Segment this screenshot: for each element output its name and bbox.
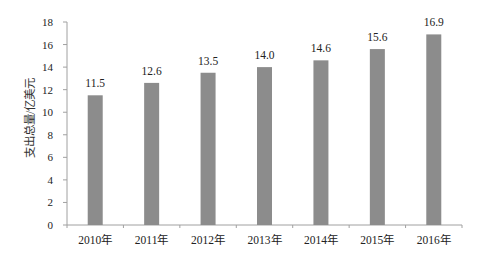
y-tick-label: 10	[42, 106, 54, 118]
y-tick-label: 12	[42, 84, 53, 96]
y-axis-label: 支出总量/亿美元	[23, 77, 36, 158]
bars: 11.52010年12.62011年13.52012年14.02013年14.6…	[78, 16, 451, 246]
bar	[426, 34, 441, 225]
x-axis	[67, 225, 462, 228]
y-tick-label: 8	[48, 129, 54, 141]
bar-value-label: 14.6	[311, 42, 331, 54]
y-tick-label: 14	[42, 61, 54, 73]
bar-chart: 024681012141618 11.52010年12.62011年13.520…	[0, 0, 482, 260]
y-axis: 024681012141618	[42, 16, 67, 231]
bar	[257, 67, 272, 225]
y-tick-label: 16	[42, 39, 54, 51]
bar-value-label: 11.5	[85, 77, 105, 89]
bar-value-label: 15.6	[367, 31, 387, 43]
y-tick-label: 4	[48, 174, 54, 186]
bar-value-label: 14.0	[254, 49, 274, 61]
x-category-label: 2010年	[78, 233, 112, 246]
bar	[88, 95, 103, 225]
bar	[313, 60, 328, 225]
y-tick-label: 6	[48, 151, 54, 163]
y-tick-label: 2	[48, 196, 54, 208]
x-category-label: 2013年	[248, 233, 282, 246]
y-tick-label: 0	[48, 219, 54, 231]
bar	[201, 73, 216, 225]
y-tick-label: 18	[42, 16, 54, 28]
x-category-label: 2014年	[304, 233, 338, 246]
bar	[144, 83, 159, 225]
x-category-label: 2011年	[135, 233, 169, 246]
x-category-label: 2015年	[360, 233, 394, 246]
bar-value-label: 16.9	[424, 16, 444, 28]
bar-value-label: 13.5	[198, 55, 218, 67]
x-category-label: 2016年	[417, 233, 451, 246]
bar-value-label: 12.6	[142, 65, 162, 77]
x-category-label: 2012年	[191, 233, 225, 246]
bar	[370, 49, 385, 225]
